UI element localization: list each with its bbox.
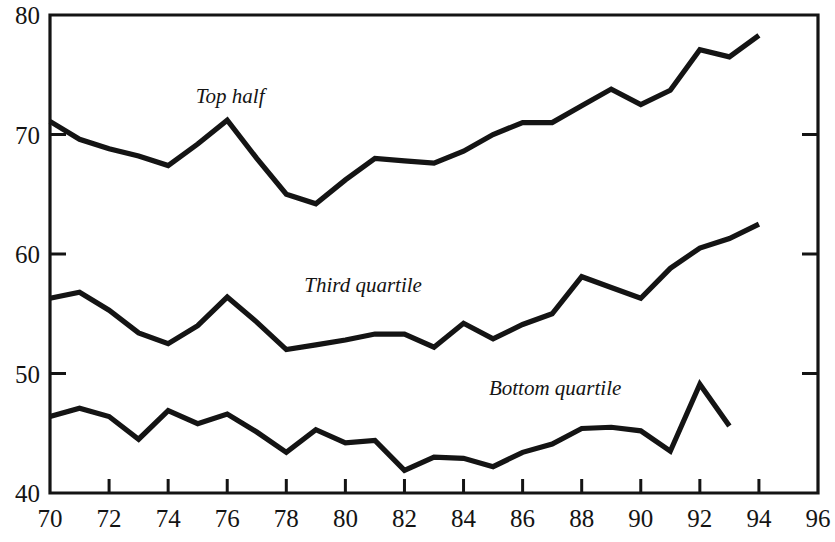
series-label-top-half: Top half (196, 84, 268, 108)
plot-border (50, 15, 818, 493)
x-tick-label-76: 76 (215, 505, 240, 532)
x-tick-label-96: 96 (806, 505, 831, 532)
x-tick-label-80: 80 (333, 505, 358, 532)
y-tick-label-80: 80 (15, 2, 40, 29)
y-tick-label-50: 50 (15, 361, 40, 388)
chart-container: 7072747678808284868890929496 4050607080 … (0, 0, 835, 542)
x-tick-label-94: 94 (746, 505, 772, 532)
y-tick-label-70: 70 (15, 122, 40, 149)
series-label-third-quartile: Third quartile (304, 273, 422, 297)
x-tick-label-74: 74 (156, 505, 182, 532)
x-tick-label-90: 90 (628, 505, 653, 532)
y-axis-tick-labels: 4050607080 (15, 2, 40, 507)
x-tick-label-88: 88 (569, 505, 594, 532)
y-tick-label-60: 60 (15, 241, 40, 268)
x-tick-label-72: 72 (97, 505, 122, 532)
y-tick-label-40: 40 (15, 480, 40, 507)
plot-frame (50, 15, 818, 493)
series-line-top-half (50, 35, 759, 203)
series-line-bottom-quartile (50, 384, 729, 470)
data-series-group (50, 35, 759, 470)
x-axis-ticks (109, 479, 759, 493)
x-tick-label-78: 78 (274, 505, 299, 532)
x-tick-label-86: 86 (510, 505, 535, 532)
x-tick-label-92: 92 (687, 505, 712, 532)
x-tick-label-84: 84 (451, 505, 477, 532)
x-tick-label-82: 82 (392, 505, 417, 532)
x-axis-tick-labels: 7072747678808284868890929496 (38, 505, 831, 532)
series-annotation-labels: Top halfThird quartileBottom quartile (196, 84, 621, 400)
x-tick-label-70: 70 (38, 505, 63, 532)
y-axis-ticks (50, 135, 818, 374)
line-chart: 7072747678808284868890929496 4050607080 … (0, 0, 835, 542)
series-label-bottom-quartile: Bottom quartile (489, 376, 621, 400)
